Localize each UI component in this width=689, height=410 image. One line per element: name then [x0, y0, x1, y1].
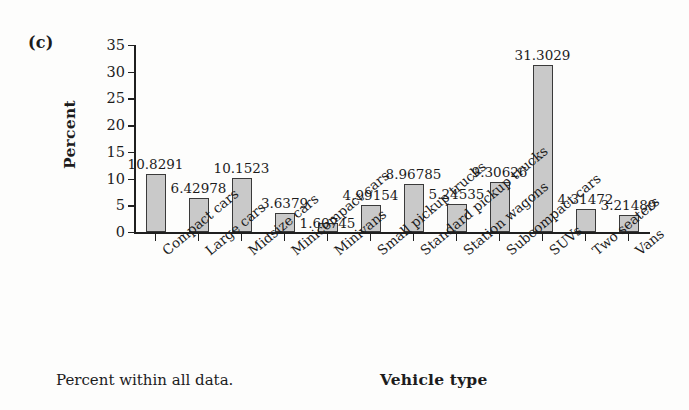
y-axis-title: Percent	[60, 100, 82, 169]
bar-value-label: 8.96785	[386, 166, 442, 182]
y-tick-mark	[128, 45, 134, 46]
bar-value-label: 10.1523	[214, 160, 270, 176]
chart-page: (c) Percent 05101520253035 10.82916.4297…	[0, 0, 689, 410]
y-tick-mark	[128, 179, 134, 180]
x-tick-mark	[499, 233, 500, 241]
x-tick-mark	[628, 233, 629, 241]
bar-value-label: 6.42978	[171, 180, 227, 196]
bar-value-label: 10.8291	[128, 156, 184, 172]
plot-area: 05101520253035 10.82916.4297810.15233.63…	[134, 45, 650, 232]
y-tick-label: 10	[107, 171, 125, 187]
x-tick-mark	[370, 233, 371, 241]
caption-note: Percent within all data.	[56, 371, 233, 389]
bar-value-label: 31.3029	[515, 47, 571, 63]
x-axis-category-label: Compact cars	[159, 185, 241, 258]
x-tick-mark	[155, 233, 156, 241]
y-tick-mark	[128, 125, 134, 126]
y-tick-mark	[128, 232, 134, 233]
y-tick-mark	[128, 72, 134, 73]
x-axis-title: Vehicle type	[380, 370, 487, 389]
y-tick-label: 25	[107, 90, 125, 106]
y-tick-label: 0	[116, 224, 125, 240]
panel-label: (c)	[28, 33, 53, 52]
y-tick-mark	[128, 98, 134, 99]
y-tick-label: 20	[107, 117, 125, 133]
x-tick-mark	[327, 233, 328, 241]
x-tick-mark	[413, 233, 414, 241]
x-tick-mark	[284, 233, 285, 241]
x-tick-mark	[542, 233, 543, 241]
bar	[146, 174, 166, 232]
y-tick-mark	[128, 205, 134, 206]
y-tick-label: 5	[116, 197, 125, 213]
y-tick-label: 15	[107, 144, 125, 160]
x-tick-mark	[585, 233, 586, 241]
y-tick-mark	[128, 152, 134, 153]
y-tick-label: 35	[107, 37, 125, 53]
x-tick-mark	[241, 233, 242, 241]
x-tick-mark	[456, 233, 457, 241]
y-axis-line	[134, 45, 136, 232]
x-tick-mark	[198, 233, 199, 241]
y-tick-label: 30	[107, 64, 125, 80]
